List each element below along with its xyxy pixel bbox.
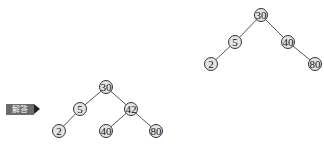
node-value: 80 [151, 125, 163, 137]
tree-diagram: 305402803054224080 [0, 0, 324, 147]
top-right-tree: 30540280 [205, 9, 322, 71]
node-value: 5 [77, 103, 83, 115]
tree-node: 2 [205, 58, 218, 71]
tree-node: 30 [255, 9, 268, 22]
node-value: 40 [283, 36, 295, 48]
tree-node: 5 [74, 103, 87, 116]
tree-node: 5 [229, 36, 242, 49]
node-value: 80 [310, 58, 322, 70]
node-value: 42 [126, 103, 137, 115]
tree-node: 80 [309, 58, 322, 71]
node-value: 30 [256, 9, 268, 21]
node-value: 40 [101, 125, 113, 137]
bottom-left-tree: 3054224080 [53, 81, 163, 138]
node-value: 5 [232, 36, 238, 48]
tree-node: 40 [100, 125, 113, 138]
tree-node: 80 [150, 125, 163, 138]
tree-node: 42 [125, 103, 138, 116]
tree-node: 30 [100, 81, 113, 94]
tree-node: 40 [282, 36, 295, 49]
node-value: 30 [101, 81, 113, 93]
node-value: 2 [208, 58, 214, 70]
tree-node: 2 [53, 125, 66, 138]
node-value: 2 [56, 125, 62, 137]
